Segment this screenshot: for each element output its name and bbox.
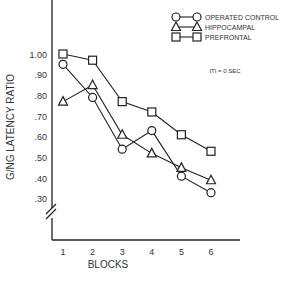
circle-legend-icon	[193, 13, 201, 21]
legend-label: PREFRONTAL	[205, 34, 252, 41]
x-tick-label: 3	[120, 247, 125, 257]
x-tick-labels: 123456	[60, 247, 213, 257]
circle-marker-icon	[118, 145, 126, 153]
series-operated-control	[59, 60, 215, 196]
x-axis-label: BLOCKS	[88, 259, 129, 270]
series-line	[63, 64, 211, 192]
legend-item: PREFRONTAL	[172, 33, 252, 41]
x-tick-label: 2	[90, 247, 95, 257]
circle-marker-icon	[207, 189, 215, 197]
x-tick-label: 6	[208, 247, 213, 257]
x-tick-label: 1	[60, 247, 65, 257]
square-marker-icon	[148, 108, 156, 116]
line-chart: .30.40.50.60.70.80.901.00 123456 G/NG LA…	[0, 0, 290, 282]
square-marker-icon	[177, 131, 185, 139]
iti-annotation: ITI = 0 SEC	[209, 68, 241, 74]
axis-break-mark	[46, 209, 56, 219]
y-axis-label: G/NG LATENCY RATIO	[5, 74, 16, 180]
series-hippocampal	[59, 80, 216, 184]
triangle-marker-icon	[88, 80, 97, 89]
y-tick-labels: .30.40.50.60.70.80.901.00	[29, 50, 47, 205]
x-tick-label: 4	[149, 247, 154, 257]
circle-marker-icon	[148, 127, 156, 135]
y-tick-label: .80	[34, 91, 47, 101]
triangle-marker-icon	[59, 97, 68, 106]
triangle-marker-icon	[118, 130, 127, 139]
circle-marker-icon	[177, 172, 185, 180]
y-tick-label: .50	[34, 153, 47, 163]
y-tick-label: .60	[34, 132, 47, 142]
square-marker-icon	[59, 50, 67, 58]
y-tick-label: .70	[34, 112, 47, 122]
series-line	[63, 54, 211, 151]
square-legend-icon	[172, 33, 180, 41]
legend-label: HIPPOCAMPAL	[205, 24, 255, 31]
y-tick-label: 1.00	[29, 50, 47, 60]
y-tick-label: .40	[34, 174, 47, 184]
series-group	[59, 50, 216, 197]
triangle-marker-icon	[147, 148, 156, 157]
legend-item: OPERATED CONTROL	[172, 13, 279, 21]
square-legend-icon	[193, 33, 201, 41]
circle-marker-icon	[89, 93, 97, 101]
circle-marker-icon	[59, 60, 67, 68]
triangle-legend-icon	[193, 22, 202, 31]
y-tick-label: .30	[34, 194, 47, 204]
legend-item: HIPPOCAMPAL	[172, 22, 256, 31]
legend: OPERATED CONTROLHIPPOCAMPALPREFRONTAL	[172, 13, 280, 41]
circle-legend-icon	[172, 13, 180, 21]
series-line	[63, 85, 211, 180]
y-tick-label: .90	[34, 70, 47, 80]
axis-break-mark	[46, 204, 56, 214]
triangle-marker-icon	[177, 163, 186, 172]
x-tick-label: 5	[179, 247, 184, 257]
square-marker-icon	[118, 98, 126, 106]
legend-label: OPERATED CONTROL	[205, 14, 279, 21]
square-marker-icon	[89, 56, 97, 64]
triangle-legend-icon	[172, 22, 181, 31]
square-marker-icon	[207, 147, 215, 155]
